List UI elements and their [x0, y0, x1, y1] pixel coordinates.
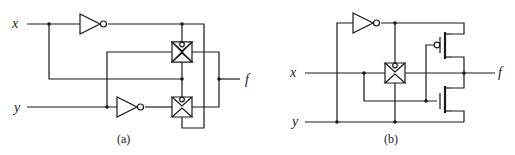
input-x-label: x — [289, 65, 297, 80]
input-y-label: y — [290, 114, 299, 129]
transmission-gate-icon — [385, 63, 405, 83]
caption-a: (a) — [117, 132, 130, 146]
wires-a — [27, 24, 240, 128]
nmos-transistor-icon — [440, 86, 452, 113]
circuit-figure: x y f (a) — [0, 0, 515, 155]
input-x-label: x — [11, 16, 19, 31]
inverter-icon — [117, 97, 144, 117]
inverter-icon — [80, 14, 107, 34]
output-f-label: f — [245, 72, 251, 87]
inverter-icon — [353, 13, 380, 33]
input-y-label: y — [12, 100, 21, 115]
wires-b — [305, 23, 495, 122]
output-f-label: f — [498, 65, 504, 80]
panel-b: x y f (b) — [289, 13, 504, 146]
junction-dots-a — [47, 22, 221, 109]
pmos-transistor-icon — [434, 32, 452, 59]
caption-b: (b) — [384, 132, 398, 146]
transmission-gate-icon — [172, 97, 192, 117]
panel-a: x y f (a) — [11, 14, 251, 146]
transmission-gate-icon — [172, 42, 192, 62]
